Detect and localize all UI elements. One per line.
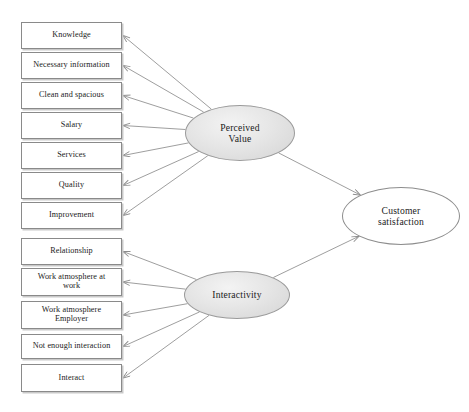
latent-label: Interactivity xyxy=(212,289,261,300)
indicator-label: Salary xyxy=(61,121,83,130)
latent-label: Customer satisfaction xyxy=(378,205,424,228)
indicator-label: Quality xyxy=(59,181,84,190)
indicator-label: Knowledge xyxy=(52,31,91,40)
indicator-box-necessary_information[interactable]: Necessary information xyxy=(21,52,122,79)
indicator-box-quality[interactable]: Quality xyxy=(21,172,122,199)
indicator-box-work_atmosphere_at_work[interactable]: Work atmosphere at work xyxy=(21,268,122,296)
indicator-box-clean_and_spacious[interactable]: Clean and spacious xyxy=(21,82,122,109)
indicator-box-interact[interactable]: Interact xyxy=(21,364,122,392)
indicator-label: Necessary information xyxy=(33,61,109,70)
indicator-label: Relationship xyxy=(50,247,93,256)
indicator-box-relationship[interactable]: Relationship xyxy=(21,238,122,265)
indicator-box-not_enough_interaction[interactable]: Not enough interaction xyxy=(21,334,122,359)
indicator-label: Not enough interaction xyxy=(33,342,111,351)
node-layer: KnowledgeNecessary informationClean and … xyxy=(0,0,469,412)
path-diagram: KnowledgeNecessary informationClean and … xyxy=(0,0,469,412)
indicator-box-services[interactable]: Services xyxy=(21,142,122,169)
latent-ellipse-customer_satisfaction[interactable]: Customer satisfaction xyxy=(342,187,460,245)
indicator-label: Interact xyxy=(59,374,85,383)
indicator-label: Work atmosphere at work xyxy=(38,273,106,290)
indicator-label: Improvement xyxy=(49,211,94,220)
latent-ellipse-perceived_value[interactable]: Perceived Value xyxy=(185,105,295,161)
indicator-box-salary[interactable]: Salary xyxy=(21,112,122,139)
latent-label: Perceived Value xyxy=(220,122,260,145)
indicator-box-improvement[interactable]: Improvement xyxy=(21,202,122,229)
indicator-label: Clean and spacious xyxy=(39,91,104,100)
indicator-box-knowledge[interactable]: Knowledge xyxy=(21,22,122,49)
latent-ellipse-interactivity[interactable]: Interactivity xyxy=(184,271,290,319)
indicator-label: Services xyxy=(57,151,86,160)
indicator-label: Work atmosphere Employer xyxy=(42,306,101,323)
indicator-box-work_atmosphere_employer[interactable]: Work atmosphere Employer xyxy=(21,301,122,329)
